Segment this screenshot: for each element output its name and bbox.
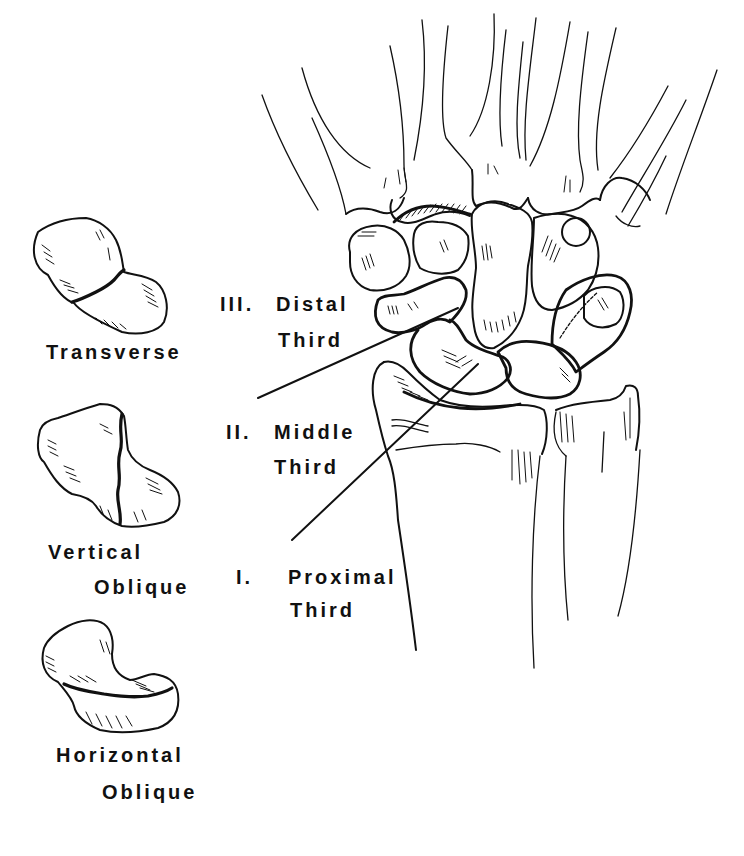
label-middle: Middle xyxy=(274,422,355,442)
label-transverse: Transverse xyxy=(46,342,182,362)
leader-line-proximal-third xyxy=(292,364,478,540)
label-proximal: Proximal xyxy=(288,567,396,587)
label-distal: Distal xyxy=(276,294,348,314)
metacarpals xyxy=(262,14,717,226)
scaphoid-horizontal-oblique-illustration xyxy=(43,620,179,732)
leader-line-distal-third xyxy=(258,308,458,398)
label-numeral-ii: II. xyxy=(226,422,252,442)
label-middle-third: Third xyxy=(274,457,339,477)
distal-carpal-row xyxy=(349,201,598,348)
ulna xyxy=(554,385,640,620)
label-vertical: Vertical xyxy=(48,542,143,562)
label-horizontal-oblique: Oblique xyxy=(102,782,197,802)
scaphoid-fracture-diagram: Transverse Vertical Oblique Horizontal O… xyxy=(0,0,744,856)
scaphoid-transverse-illustration xyxy=(34,218,167,334)
label-numeral-iii: III. xyxy=(220,294,254,314)
label-numeral-i: I. xyxy=(236,567,253,587)
scaphoid-vertical-oblique-illustration xyxy=(38,404,180,527)
radius xyxy=(373,361,547,668)
label-proximal-third: Third xyxy=(290,600,355,620)
proximal-carpal-row xyxy=(375,275,631,398)
metacarpal-bases xyxy=(346,164,650,227)
label-horizontal: Horizontal xyxy=(56,745,184,765)
label-distal-third: Third xyxy=(278,330,343,350)
diagram-artwork xyxy=(0,0,744,856)
label-vertical-oblique: Oblique xyxy=(94,577,189,597)
